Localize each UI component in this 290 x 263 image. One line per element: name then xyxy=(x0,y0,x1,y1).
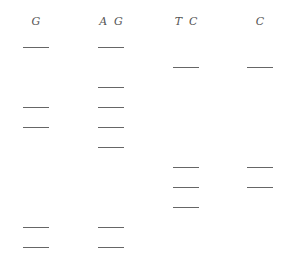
gel-band xyxy=(173,67,199,68)
gel-band xyxy=(173,187,199,188)
gel-band xyxy=(247,187,273,188)
gel-band xyxy=(247,67,273,68)
gel-band xyxy=(247,167,273,168)
gel-band xyxy=(23,107,49,108)
gel-band xyxy=(23,247,49,248)
gel-band xyxy=(98,227,124,228)
lane-label-ag: A G xyxy=(86,15,136,28)
gel-band xyxy=(23,47,49,48)
gel-band xyxy=(98,47,124,48)
gel-band xyxy=(98,147,124,148)
gel-band xyxy=(23,227,49,228)
lane-label-c: C xyxy=(235,15,285,28)
gel-band xyxy=(98,247,124,248)
gel-band xyxy=(98,127,124,128)
gel-band xyxy=(173,167,199,168)
gel-band xyxy=(173,207,199,208)
gel-band xyxy=(98,87,124,88)
sequencing-gel: G A G T C C xyxy=(0,0,290,263)
gel-band xyxy=(23,127,49,128)
lane-label-tc: T C xyxy=(161,15,211,28)
gel-band xyxy=(98,107,124,108)
lane-label-g: G xyxy=(11,15,61,28)
